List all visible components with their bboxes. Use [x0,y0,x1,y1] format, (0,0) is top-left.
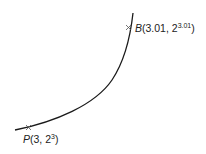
point-b-marker [126,25,131,30]
point-p-exponent: 3 [51,133,55,140]
diagram-canvas: B(3.01, 23.01) P(3, 23) [0,0,206,154]
exponential-curve [15,13,133,130]
point-p-name: P [23,133,30,145]
point-p-x: 3 [34,133,40,145]
point-b-exponent: 3.01 [178,22,192,29]
point-p-label: P(3, 23) [23,134,58,145]
point-b-name: B [135,22,142,34]
point-b-x: 3.01 [146,22,166,34]
point-b-label: B(3.01, 23.01) [135,23,195,34]
